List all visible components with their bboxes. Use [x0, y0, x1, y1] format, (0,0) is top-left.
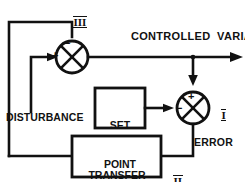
error-label: ERROR	[194, 137, 233, 148]
controlled-variable-label: CONTROLLED VARIABLE	[131, 31, 245, 42]
marker-two-text: II	[173, 175, 183, 182]
process-summing-junction	[56, 41, 88, 73]
disturbance-path	[31, 53, 58, 112]
set-point-output-path	[145, 104, 174, 112]
set-point-line-1: SET	[98, 119, 142, 132]
marker-one: I	[210, 98, 226, 132]
marker-one-text: I	[221, 109, 226, 121]
transfer-function-line-1: TRANSFER	[74, 168, 160, 182]
marker-three-text: III	[73, 16, 87, 28]
marker-two: II	[162, 164, 183, 182]
outer-feedback-path	[9, 22, 72, 156]
block-diagram: CONTROLLED VARIABLE DISTURBANCE ERROR SE…	[0, 0, 245, 182]
comparator-junction-top-sign: +	[188, 91, 194, 102]
marker-three: III	[62, 5, 87, 39]
transfer-function-block-label: TRANSFER FUNCTION	[74, 140, 160, 182]
disturbance-label: DISTURBANCE	[6, 112, 84, 123]
error-path	[161, 124, 193, 156]
feedback-tap-path	[188, 55, 198, 86]
process-junction-top-sign: −	[64, 38, 70, 49]
controlled-variable-path	[88, 52, 243, 62]
comparator-junction-left-sign: −	[176, 103, 182, 114]
process-junction-left-sign: +	[52, 50, 58, 61]
